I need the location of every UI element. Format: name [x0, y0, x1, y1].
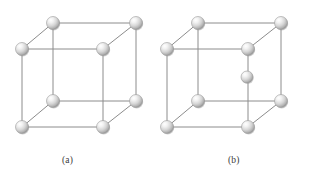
- caption-panel-b: (b): [228, 155, 240, 165]
- cubic-lattice-figure: [0, 0, 327, 177]
- caption-panel-a: (a): [62, 155, 73, 165]
